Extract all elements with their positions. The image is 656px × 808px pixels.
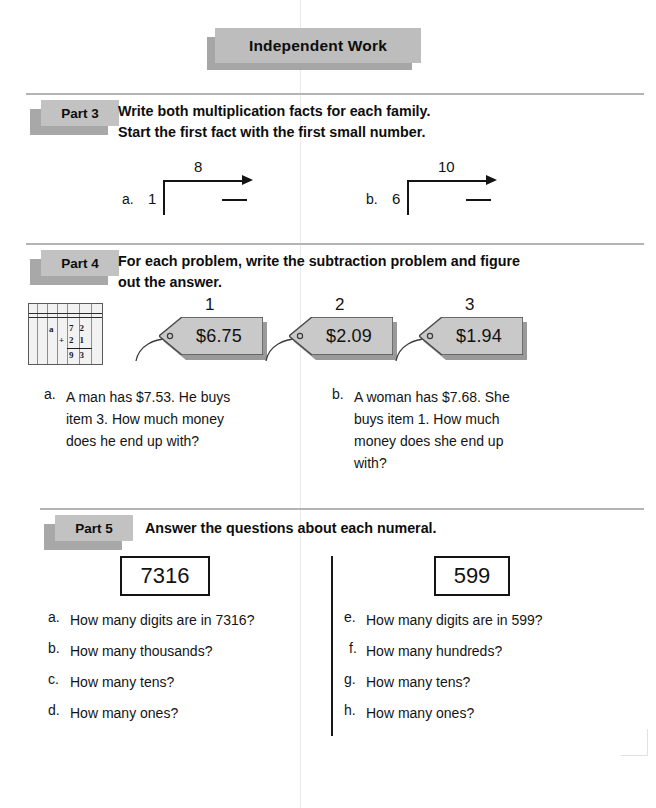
number-family-b: b. 6 10 [366, 165, 516, 217]
part5-question-a-letter: a. [48, 609, 60, 625]
page-title-banner: Independent Work [207, 28, 417, 70]
part5-question-g-letter: g. [344, 671, 356, 687]
chip-fill: Part 5 [55, 515, 133, 541]
part3-instruction-line1-text: Write both multiplication facts for each… [118, 103, 430, 119]
part5-question-a-text: How many digits are in 7316? [70, 609, 254, 631]
part5-question-d-text: How many ones? [70, 702, 178, 724]
price-tag-3-price: $1.94 [440, 326, 502, 347]
part3-instruction-line2-pre: Start the first fact with the [118, 124, 298, 140]
part4-instruction-line1-text: For each problem, write the subtraction … [118, 253, 520, 269]
chip-fill: Part 4 [41, 250, 119, 276]
part4-question-b-line4: with? [354, 452, 604, 474]
family-a-start-number: 1 [148, 190, 156, 207]
part-label-chip-part3: Part 3 [41, 100, 119, 126]
notebook-addend-bottom: 21 [69, 335, 90, 345]
scanner-corner-artifact [621, 729, 648, 756]
part4-question-a-letter: a. [44, 386, 56, 402]
family-b-answer-blank[interactable] [466, 199, 491, 201]
part-label-text: Part 4 [61, 256, 99, 271]
family-b-horizontal-rule [407, 180, 493, 182]
numeral-box-7316: 7316 [120, 556, 210, 596]
price-tag-3: 3 $1.94 [417, 317, 529, 363]
part5-question-b-text: How many thousands? [70, 640, 212, 662]
part4-instruction-line2: out the answer. [118, 272, 222, 293]
family-a-answer-blank[interactable] [222, 199, 247, 201]
price-tag-3-number: 3 [465, 295, 474, 315]
part-label-chip-part4: Part 4 [41, 250, 119, 276]
family-a-letter: a. [122, 191, 134, 207]
number-family-a: a. 1 8 [122, 165, 272, 217]
price-tag-2-number: 2 [335, 295, 344, 315]
numeral-box-599: 599 [434, 556, 510, 596]
notebook-item-letter: a [49, 324, 54, 334]
part3-instruction-line2: Start the first fact with the first smal… [118, 122, 425, 143]
section-rule-part3 [26, 93, 644, 95]
part4-question-b-line2: buys item 1. How much [354, 408, 604, 430]
part4-question-b-text: A woman has $7.68. She buys item 1. How … [354, 386, 604, 474]
price-tag-1-price: $6.75 [180, 326, 242, 347]
part5-question-h-letter: h. [344, 702, 356, 718]
part-label-text: Part 5 [75, 521, 113, 536]
part5-instruction-line1-text: Answer the questions about each numeral. [145, 520, 437, 536]
family-b-vertical-rule [407, 180, 409, 215]
notebook-plus-sign: + [59, 335, 64, 345]
family-a-arrowhead-icon [242, 175, 253, 185]
part-label-text: Part 3 [61, 106, 99, 121]
chip-fill: Part 3 [41, 100, 119, 126]
part4-question-a-line1: A man has $7.53. He buys [66, 386, 306, 408]
family-b-top-number: 10 [438, 158, 455, 175]
part3-instruction-line2-emphasis: first [298, 124, 325, 140]
part5-question-f-letter: f. [349, 640, 357, 656]
part5-question-b-letter: b. [48, 640, 60, 656]
part4-question-b-letter: b. [332, 386, 344, 402]
part4-question-b-line1: A woman has $7.68. She [354, 386, 604, 408]
part-label-chip-part5: Part 5 [55, 515, 133, 541]
family-b-letter: b. [366, 191, 378, 207]
family-a-top-number: 8 [194, 158, 202, 175]
part3-instruction-line1: Write both multiplication facts for each… [118, 101, 430, 122]
part5-question-d-letter: d. [48, 702, 60, 718]
page-title: Independent Work [249, 37, 387, 55]
lined-paper-addition-icon: a 72 + 21 93 [28, 303, 103, 365]
paper-header-line-bottom [29, 317, 102, 318]
section-rule-part5 [40, 508, 644, 510]
part4-question-a-text: A man has $7.53. He buys item 3. How muc… [66, 386, 306, 452]
section-rule-part4 [26, 243, 644, 245]
part5-column-divider [331, 556, 333, 736]
part3-instruction-line2-post: small number. [325, 124, 425, 140]
family-a-vertical-rule [163, 180, 165, 215]
part4-question-a-line2: item 3. How much money [66, 408, 306, 430]
family-a-horizontal-rule [163, 180, 249, 182]
part4-instruction-line2-text: out the answer. [118, 274, 222, 290]
numeral-value-right: 599 [454, 563, 491, 589]
price-tag-2-price: $2.09 [310, 326, 372, 347]
part4-question-b-line3: money does she end up [354, 430, 604, 452]
part5-question-c-text: How many tens? [70, 671, 174, 693]
price-tag-1-number: 1 [205, 295, 214, 315]
part5-question-c-letter: c. [48, 671, 59, 687]
part4-question-a-line3: does he end up with? [66, 430, 306, 452]
paper-header-line-top [29, 313, 102, 314]
part5-question-e-letter: e. [344, 609, 356, 625]
part5-question-f-text: How many hundreds? [366, 640, 502, 662]
notebook-sum: 93 [69, 350, 90, 360]
part5-question-g-text: How many tens? [366, 671, 470, 693]
part4-instruction-line1: For each problem, write the subtraction … [118, 251, 520, 272]
part5-instruction-line1: Answer the questions about each numeral. [145, 518, 437, 539]
part5-question-h-text: How many ones? [366, 702, 474, 724]
price-tag-2: 2 $2.09 [287, 317, 399, 363]
family-b-arrowhead-icon [486, 175, 497, 185]
part5-question-e-text: How many digits are in 599? [366, 609, 543, 631]
banner-fill: Independent Work [215, 28, 421, 63]
family-b-start-number: 6 [392, 190, 400, 207]
notebook-addend-top: 72 [69, 323, 90, 333]
price-tag-1: 1 $6.75 [157, 317, 269, 363]
numeral-value-left: 7316 [141, 563, 190, 589]
